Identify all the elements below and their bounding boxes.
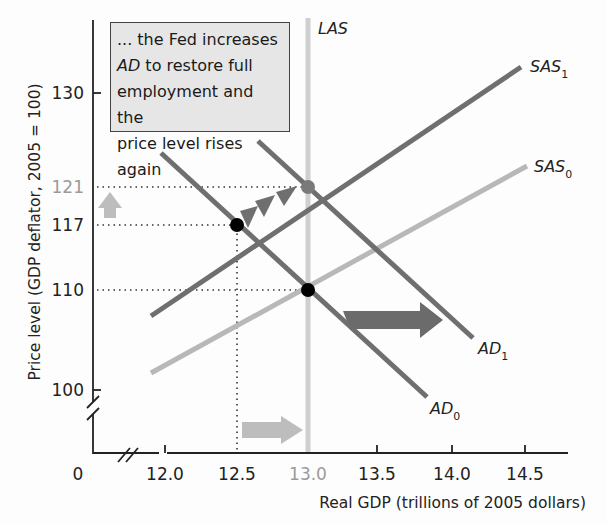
chart-svg: 130 121 117 110 100 0 12.0 12.5 13.0 13.…	[0, 0, 607, 524]
x-tick-label-12-5: 12.5	[218, 464, 256, 484]
sas0-label: SAS0	[534, 157, 572, 181]
ad1-label: AD1	[477, 339, 508, 363]
x-tick-label-14-5: 14.5	[506, 464, 544, 484]
y-axis-title: Price level (GDP deflator, 2005 = 100)	[26, 83, 44, 380]
equilibrium-point-12-5-117	[230, 218, 244, 232]
x-axis-title: Real GDP (trillions of 2005 dollars)	[319, 494, 586, 512]
annotation-line: ... the Fed increases	[117, 27, 283, 53]
annotation-box: ... the Fed increases AD to restore full…	[110, 22, 290, 132]
annotation-text: to restore full	[140, 56, 253, 75]
chevron-arrow-icon	[276, 186, 297, 206]
y-tick-label-121: 121	[52, 177, 84, 197]
y-tick-label-110: 110	[52, 280, 84, 300]
x-tick-label-13-5: 13.5	[358, 464, 396, 484]
equilibrium-point-13-110	[301, 283, 315, 297]
x-tick-label-14-0: 14.0	[433, 464, 471, 484]
price-up-arrow-icon	[98, 192, 122, 218]
y-tick-label-130: 130	[52, 83, 84, 103]
annotation-line: employment and the	[117, 79, 283, 131]
y-axis-lower	[93, 414, 159, 453]
gdp-right-arrow-icon	[242, 416, 303, 444]
equilibrium-point-13-121	[301, 180, 315, 194]
annotation-line: AD to restore full	[117, 53, 283, 79]
y-tick-label-100: 100	[52, 380, 84, 400]
chart-root: 130 121 117 110 100 0 12.0 12.5 13.0 13.…	[0, 0, 607, 524]
ad0-label: AD0	[429, 399, 460, 423]
las-label: LAS	[318, 19, 348, 38]
annotation-ad-term: AD	[117, 56, 140, 75]
x-tick-label-13-0: 13.0	[289, 464, 327, 484]
y-tick-label-117: 117	[52, 215, 84, 235]
sas1-label: SAS1	[530, 57, 568, 81]
guide-lines	[97, 187, 305, 452]
x-tick-label-0: 0	[73, 464, 84, 484]
x-tick-label-12-0: 12.0	[146, 464, 184, 484]
chevron-arrow-icon	[255, 195, 275, 217]
annotation-line: price level rises again	[117, 131, 283, 183]
